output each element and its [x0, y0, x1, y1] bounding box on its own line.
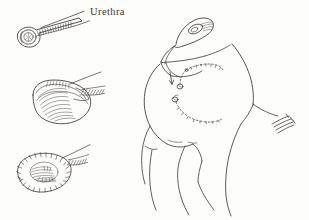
main-anatomy-drawing — [142, 18, 295, 216]
urethra-label: Urethra — [90, 7, 125, 18]
inset-urethral-tube — [17, 11, 89, 47]
inset-urethra-flattened-graft — [17, 145, 90, 193]
illustration-canvas: Urethra — [0, 0, 309, 220]
inset-urethra-opened — [33, 72, 105, 124]
right-hatch-marks — [272, 114, 295, 133]
dashed-suture-line-lower — [176, 102, 222, 122]
glans-detail — [174, 18, 213, 48]
illustration-svg — [0, 0, 309, 220]
inner-hatch-whorl — [31, 166, 56, 182]
